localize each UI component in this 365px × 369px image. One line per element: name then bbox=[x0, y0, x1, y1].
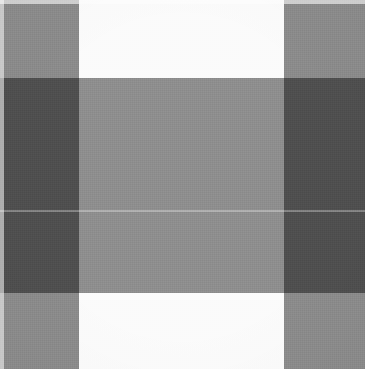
horizontal-band-bottom bbox=[0, 293, 365, 369]
horizontal-band-top bbox=[0, 0, 365, 78]
horizontal-band-middle bbox=[0, 78, 365, 293]
fabric-swatch-image bbox=[0, 0, 365, 369]
